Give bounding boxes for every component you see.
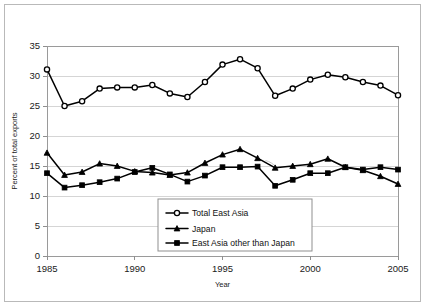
- series-2-marker: [273, 183, 278, 188]
- series-0-marker: [378, 83, 383, 88]
- y-tick-label: 10: [29, 190, 40, 201]
- legend-marker-0: [174, 210, 179, 215]
- series-0-marker: [360, 79, 365, 84]
- x-tick-label: 1995: [212, 263, 233, 274]
- series-0-marker: [237, 57, 242, 62]
- series-0-marker: [308, 77, 313, 82]
- series-2-marker: [325, 171, 330, 176]
- x-axis-title: Year: [215, 280, 231, 289]
- y-tick-label: 5: [35, 220, 40, 231]
- legend-marker-2: [175, 241, 180, 246]
- series-2-marker: [308, 171, 313, 176]
- y-tick-label: 20: [29, 130, 40, 141]
- series-2-marker: [238, 165, 243, 170]
- series-0-marker: [202, 79, 207, 84]
- series-0-marker: [132, 85, 137, 90]
- series-0-marker: [62, 103, 67, 108]
- legend-label-0: Total East Asia: [192, 208, 249, 218]
- series-0-marker: [115, 85, 120, 90]
- legend-label-2: East Asia other than Japan: [192, 238, 295, 248]
- series-0-marker: [150, 82, 155, 87]
- y-axis-title: Percent of total exports: [10, 112, 19, 189]
- x-tick-label: 2005: [387, 263, 408, 274]
- y-tick-label: 0: [35, 250, 40, 261]
- series-1-marker: [325, 156, 331, 161]
- line-chart: 0510152025303519851990199520002005YearPe…: [0, 0, 425, 306]
- series-2-marker: [185, 179, 190, 184]
- series-0-marker: [167, 91, 172, 96]
- series-0-marker: [97, 86, 102, 91]
- series-0-marker: [290, 86, 295, 91]
- y-tick-label: 15: [29, 160, 40, 171]
- y-tick-label: 30: [29, 70, 40, 81]
- series-1-marker: [44, 150, 50, 155]
- series-2-marker: [167, 172, 172, 177]
- series-2-marker: [290, 177, 295, 182]
- series-2-marker: [45, 171, 50, 176]
- series-0-marker: [44, 67, 49, 72]
- series-2-marker: [62, 185, 67, 190]
- x-tick-label: 1985: [36, 263, 57, 274]
- series-0-marker: [220, 62, 225, 67]
- y-tick-label: 25: [29, 100, 40, 111]
- series-0-marker: [343, 75, 348, 80]
- series-0-marker: [395, 93, 400, 98]
- chart-figure: 0510152025303519851990199520002005YearPe…: [0, 0, 425, 306]
- series-2-marker: [343, 165, 348, 170]
- series-1-marker: [237, 146, 243, 151]
- series-2-marker: [97, 180, 102, 185]
- series-2-marker: [132, 170, 137, 175]
- series-0-marker: [80, 99, 85, 104]
- series-2-marker: [203, 173, 208, 178]
- x-tick-label: 2000: [300, 263, 321, 274]
- series-2-marker: [150, 165, 155, 170]
- series-2-marker: [255, 164, 260, 169]
- legend-label-1: Japan: [192, 224, 216, 234]
- y-tick-label: 35: [29, 40, 40, 51]
- series-2-marker: [361, 167, 366, 172]
- series-2-marker: [220, 165, 225, 170]
- series-2-marker: [396, 167, 401, 172]
- series-2-marker: [115, 176, 120, 181]
- series-0-marker: [185, 94, 190, 99]
- series-0-marker: [273, 93, 278, 98]
- series-2-marker: [378, 165, 383, 170]
- series-2-marker: [80, 183, 85, 188]
- series-0-marker: [325, 72, 330, 77]
- x-tick-label: 1990: [124, 263, 145, 274]
- series-0-marker: [255, 66, 260, 71]
